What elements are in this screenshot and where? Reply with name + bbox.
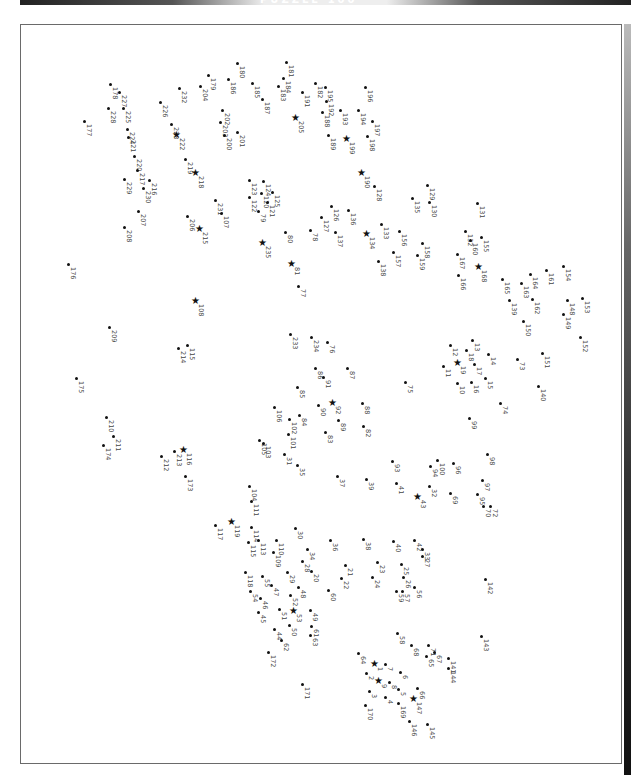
dot-number-label: 6 bbox=[401, 675, 409, 679]
dot-point bbox=[221, 109, 224, 112]
dot-number-label: 92 bbox=[334, 406, 342, 414]
dot-point bbox=[501, 278, 504, 281]
dot-number-label: 98 bbox=[488, 457, 496, 465]
dot-number-label: 164 bbox=[531, 277, 539, 289]
dot-number-label: 80 bbox=[286, 235, 294, 243]
dot-point bbox=[411, 197, 414, 200]
dot-point bbox=[508, 299, 511, 302]
dot-number-label: 94 bbox=[431, 469, 439, 477]
dot-point bbox=[447, 657, 450, 660]
dot-point bbox=[250, 526, 253, 529]
dot-point bbox=[214, 199, 217, 202]
dot-point bbox=[220, 212, 223, 215]
dot-point bbox=[481, 479, 484, 482]
dot-number-label: 91 bbox=[324, 380, 332, 388]
dot-number-label: 65 bbox=[427, 659, 435, 667]
dot-number-label: 227 bbox=[120, 95, 128, 107]
dot-point bbox=[377, 260, 380, 263]
dot-number-label: 190 bbox=[363, 176, 371, 188]
dot-point bbox=[285, 61, 288, 64]
dot-number-label: 36 bbox=[331, 543, 339, 551]
dot-number-label: 4 bbox=[386, 700, 394, 704]
dot-point bbox=[284, 231, 287, 234]
dot-number-label: 14 bbox=[489, 357, 497, 365]
dot-number-label: 138 bbox=[379, 264, 387, 276]
dot-point bbox=[397, 688, 400, 691]
dot-point bbox=[484, 578, 487, 581]
dot-point bbox=[322, 376, 325, 379]
dot-number-label: 95 bbox=[478, 497, 486, 505]
dot-point bbox=[486, 453, 489, 456]
dot-point bbox=[301, 91, 304, 94]
dot-number-label: 56 bbox=[415, 590, 423, 598]
dot-number-label: 93 bbox=[393, 464, 401, 472]
dot-number-label: 209 bbox=[110, 330, 118, 342]
dot-point bbox=[376, 561, 379, 564]
dot-number-label: 174 bbox=[104, 448, 112, 460]
dot-point bbox=[280, 639, 283, 642]
dot-point bbox=[173, 450, 176, 453]
dot-number-label: 232 bbox=[180, 91, 188, 103]
dot-point bbox=[421, 555, 424, 558]
dot-number-label: 20 bbox=[312, 574, 320, 582]
dot-point bbox=[301, 560, 304, 563]
dot-point bbox=[289, 333, 292, 336]
dot-point bbox=[309, 634, 312, 637]
dot-number-label: 83 bbox=[326, 435, 334, 443]
dot-point bbox=[327, 589, 330, 592]
dot-number-label: 225 bbox=[124, 111, 132, 123]
dot-number-label: 136 bbox=[349, 213, 357, 225]
dot-number-label: 38 bbox=[364, 542, 372, 550]
dot-point bbox=[329, 539, 332, 542]
dot-number-label: 57 bbox=[403, 594, 411, 602]
dot-number-label: 171 bbox=[303, 687, 311, 699]
dot-number-label: 148 bbox=[568, 303, 576, 315]
dot-point bbox=[136, 169, 139, 172]
dot-number-label: 49 bbox=[311, 613, 319, 621]
dot-number-label: 131 bbox=[478, 206, 486, 218]
dot-point bbox=[436, 459, 439, 462]
dot-point bbox=[531, 298, 534, 301]
dot-point bbox=[371, 120, 374, 123]
dot-point bbox=[473, 363, 476, 366]
dot-point bbox=[109, 83, 112, 86]
dot-number-label: 78 bbox=[311, 233, 319, 241]
dot-point bbox=[159, 101, 162, 104]
dot-number-label: 142 bbox=[486, 582, 494, 594]
dot-number-label: 73 bbox=[518, 362, 526, 370]
dot-point bbox=[392, 251, 395, 254]
dot-point bbox=[267, 651, 270, 654]
dot-number-label: 172 bbox=[269, 655, 277, 667]
dot-number-label: 46 bbox=[261, 601, 269, 609]
dot-number-label: 100 bbox=[438, 463, 446, 475]
dot-point bbox=[112, 435, 115, 438]
dot-number-label: 175 bbox=[77, 381, 85, 393]
dot-point bbox=[384, 696, 387, 699]
dot-number-label: 23 bbox=[378, 565, 386, 573]
dot-number-label: 156 bbox=[400, 234, 408, 246]
dot-point bbox=[199, 85, 202, 88]
dot-number-label: 75 bbox=[406, 385, 414, 393]
dot-point bbox=[330, 205, 333, 208]
dot-number-label: 68 bbox=[412, 648, 420, 656]
dot-point bbox=[219, 121, 222, 124]
dot-number-label: 187 bbox=[263, 102, 271, 114]
dot-number-label: 135 bbox=[413, 201, 421, 213]
dot-number-label: 118 bbox=[246, 575, 254, 587]
dot-number-label: 43 bbox=[419, 500, 427, 508]
dot-point bbox=[476, 202, 479, 205]
dot-number-label: 150 bbox=[524, 324, 532, 336]
dot-number-label: 41 bbox=[397, 486, 405, 494]
dot-number-label: 159 bbox=[418, 258, 426, 270]
dot-number-label: 152 bbox=[581, 340, 589, 352]
dot-number-label: 188 bbox=[323, 115, 331, 127]
dot-number-label: 16 bbox=[472, 385, 480, 393]
dot-point bbox=[487, 353, 490, 356]
dot-number-label: 167 bbox=[458, 257, 466, 269]
dot-point bbox=[416, 687, 419, 690]
dot-number-label: 143 bbox=[482, 639, 490, 651]
dot-number-label: 66 bbox=[418, 691, 426, 699]
dot-number-label: 121 bbox=[268, 205, 276, 217]
dot-number-label: 234 bbox=[312, 340, 320, 352]
dot-point bbox=[408, 720, 411, 723]
